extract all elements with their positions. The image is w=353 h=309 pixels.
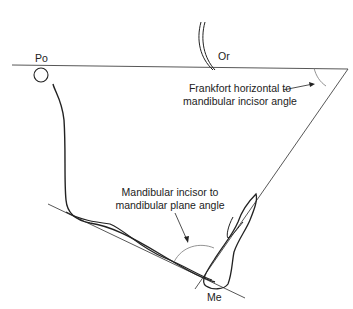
- mp-arrowhead: [184, 236, 189, 243]
- frankfort-horizontal-line: [12, 65, 348, 69]
- mp-angle-arc: [174, 245, 214, 262]
- diagram-drawing: [0, 0, 353, 309]
- orbitale-curve-2: [203, 22, 215, 70]
- mp-angle-label: Mandibular incisor to mandibular plane a…: [100, 186, 240, 212]
- menton-label: Me: [207, 291, 222, 304]
- cephalometric-diagram: Po Or Me Frankfort horizontal to mandibu…: [0, 0, 353, 309]
- mp-arrow: [175, 213, 187, 240]
- fh-angle-arc: [314, 68, 326, 86]
- mp-angle-label-line1: Mandibular incisor to: [100, 186, 240, 199]
- fh-angle-label: Frankfort horizontal to mandibular incis…: [165, 82, 315, 108]
- mp-angle-label-line2: mandibular plane angle: [100, 199, 240, 212]
- orbitale-curve: [199, 22, 213, 70]
- porion-label: Po: [35, 52, 48, 65]
- orbitale-label: Or: [218, 50, 230, 63]
- mandible-outline: [53, 84, 215, 282]
- porion-circle: [34, 68, 48, 82]
- fh-angle-label-line2: mandibular incisor angle: [165, 95, 315, 108]
- fh-angle-label-line1: Frankfort horizontal to: [165, 82, 315, 95]
